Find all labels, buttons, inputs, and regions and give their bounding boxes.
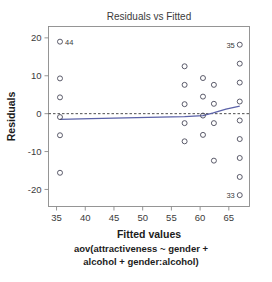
x-tick-label: 50 <box>137 212 148 223</box>
data-point <box>200 132 205 137</box>
x-tick-label: 60 <box>195 212 206 223</box>
caption-line-2: alcohol + gender:alcohol) <box>83 256 198 267</box>
point-outlier-label: 33 <box>226 191 234 200</box>
x-tick-label: 45 <box>109 212 120 223</box>
data-point <box>237 42 242 47</box>
data-point <box>182 121 187 126</box>
data-point <box>211 82 216 87</box>
caption-line-1: aov(attractiveness ~ gender + <box>74 243 209 254</box>
y-axis-title: Residuals <box>5 92 17 142</box>
x-tick-label: 55 <box>166 212 177 223</box>
loess-smoother-line <box>60 106 240 119</box>
x-axis-title: Fitted values <box>117 228 181 240</box>
chart-title: Residuals vs Fitted <box>107 11 191 22</box>
data-point <box>57 95 62 100</box>
plot-frame <box>49 27 250 207</box>
data-point <box>182 102 187 107</box>
data-point <box>182 64 187 69</box>
y-tick-label: -10 <box>28 146 42 157</box>
x-tick-label: 40 <box>80 212 91 223</box>
x-tick-label: 35 <box>51 212 62 223</box>
residuals-vs-fitted-plot: 20100-10-2035404550556065443533Residuals… <box>0 0 272 282</box>
data-point <box>237 61 242 66</box>
data-point <box>211 158 216 163</box>
data-point <box>211 101 216 106</box>
data-point <box>237 118 242 123</box>
data-point <box>211 121 216 126</box>
point-outlier-label: 44 <box>65 38 73 47</box>
chart-canvas: 20100-10-2035404550556065443533Residuals… <box>0 0 272 282</box>
data-point <box>200 76 205 81</box>
y-tick-label: 20 <box>31 32 42 43</box>
data-point <box>57 133 62 138</box>
data-point <box>237 155 242 160</box>
data-point <box>182 139 187 144</box>
data-point <box>57 170 62 175</box>
data-point <box>237 99 242 104</box>
data-point <box>200 94 205 99</box>
x-tick-label: 65 <box>224 212 235 223</box>
y-tick-label: 0 <box>36 108 41 119</box>
data-point <box>57 76 62 81</box>
y-tick-label: -20 <box>28 184 42 195</box>
data-point <box>182 82 187 87</box>
data-point <box>57 39 62 44</box>
point-outlier-label: 35 <box>226 41 234 50</box>
data-point <box>237 80 242 85</box>
data-point <box>237 193 242 198</box>
data-point <box>237 137 242 142</box>
y-tick-label: 10 <box>31 70 42 81</box>
data-point <box>237 174 242 179</box>
